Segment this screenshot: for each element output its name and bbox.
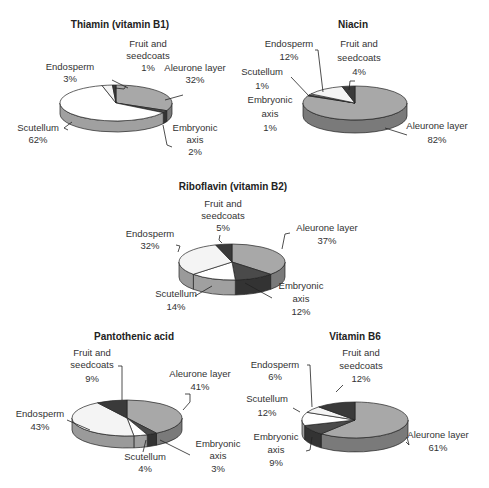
label-fruit: Fruit and — [340, 38, 378, 49]
label-aleurone-value: 37% — [317, 235, 337, 246]
label-embryonic: Embryonic — [254, 431, 299, 442]
label-fruit: Fruit and — [204, 198, 242, 209]
label-endosperm-value: 43% — [30, 421, 50, 432]
label-aleurone: Aleurone layer — [164, 62, 225, 73]
label-endosperm-value: 12% — [279, 51, 299, 62]
label-fruit-value: 5% — [216, 222, 230, 233]
chart-title: Niacin — [338, 19, 368, 30]
chart-title: Vitamin B6 — [329, 331, 381, 342]
label-fruit: Fruit and — [73, 347, 111, 358]
label-fruit: seedcoats — [339, 360, 383, 371]
pie-pantothenic-acid — [72, 400, 182, 448]
label-embryonic: axis — [187, 134, 204, 145]
label-scutellum: Scutellum — [17, 122, 59, 133]
chart-riboflavin: Riboflavin (vitamin B2) Fruit and seedco… — [126, 181, 358, 317]
chart-vitamin-b6: Vitamin B6 Endosperm 6% Fruit and seedco… — [246, 331, 468, 468]
label-aleurone: Aleurone layer — [407, 429, 468, 440]
label-endosperm-value: 32% — [140, 240, 160, 251]
pie-charts-figure: Thiamin (vitamin B1) Fruit and seedcoats… — [0, 0, 489, 488]
label-fruit-value: 1% — [141, 62, 155, 73]
label-fruit: seedcoats — [337, 52, 381, 63]
label-embryonic-value: 3% — [211, 463, 225, 474]
pie-niacin — [303, 86, 407, 133]
label-fruit-value: 12% — [351, 373, 371, 384]
label-scutellum: Scutellum — [124, 451, 166, 462]
label-aleurone: Aleurone layer — [169, 368, 230, 379]
label-scutellum: Scutellum — [246, 393, 288, 404]
label-embryonic: axis — [268, 444, 285, 455]
label-aleurone-value: 61% — [428, 442, 448, 453]
chart-title: Thiamin (vitamin B1) — [71, 19, 169, 30]
pie-thiamin — [60, 85, 172, 132]
label-embryonic: axis — [293, 293, 310, 304]
label-fruit: seedcoats — [126, 50, 170, 61]
label-endosperm: Endosperm — [126, 228, 175, 239]
label-fruit: seedcoats — [201, 210, 245, 221]
chart-pantothenic-acid: Pantothenic acid Fruit and seedcoats 9% … — [16, 331, 241, 474]
chart-title: Pantothenic acid — [94, 331, 174, 342]
label-embryonic: axis — [262, 108, 279, 119]
chart-thiamin: Thiamin (vitamin B1) Fruit and seedcoats… — [17, 19, 225, 157]
label-endosperm: Endosperm — [265, 38, 314, 49]
label-endosperm: Endosperm — [251, 359, 300, 370]
label-fruit: Fruit and — [129, 38, 167, 49]
label-embryonic: Embryonic — [248, 94, 293, 105]
label-fruit: seedcoats — [70, 359, 114, 370]
label-aleurone: Aleurone layer — [296, 222, 357, 233]
label-aleurone-value: 32% — [185, 74, 205, 85]
label-scutellum-value: 4% — [138, 463, 152, 474]
chart-title: Riboflavin (vitamin B2) — [179, 181, 287, 192]
label-scutellum: Scutellum — [155, 288, 197, 299]
label-embryonic-value: 1% — [263, 122, 277, 133]
label-aleurone-value: 41% — [190, 381, 210, 392]
label-embryonic: axis — [210, 450, 227, 461]
label-fruit-value: 9% — [85, 373, 99, 384]
label-scutellum-value: 62% — [28, 134, 48, 145]
label-embryonic-value: 9% — [269, 457, 283, 468]
label-scutellum-value: 12% — [257, 407, 277, 418]
label-embryonic-value: 2% — [188, 146, 202, 157]
label-aleurone: Aleurone layer — [406, 120, 467, 131]
label-fruit-value: 4% — [352, 66, 366, 77]
label-endosperm-value: 6% — [268, 371, 282, 382]
label-endosperm: Endosperm — [46, 61, 95, 72]
label-embryonic: Embryonic — [196, 438, 241, 449]
slice-side-embryonic — [147, 433, 156, 447]
label-embryonic: Embryonic — [279, 280, 324, 291]
label-embryonic: Embryonic — [173, 122, 218, 133]
pie-vitamin-b6 — [302, 402, 408, 452]
label-scutellum-value: 14% — [166, 301, 186, 312]
label-fruit: Fruit and — [342, 347, 380, 358]
chart-niacin: Niacin Endosperm 12% Fruit and seedcoats… — [241, 19, 467, 145]
label-endosperm-value: 3% — [63, 73, 77, 84]
label-scutellum-value: 1% — [255, 80, 269, 91]
label-endosperm: Endosperm — [16, 408, 65, 419]
slice-side-scutellum — [134, 435, 147, 448]
label-aleurone-value: 82% — [427, 134, 447, 145]
label-embryonic-value: 12% — [291, 306, 311, 317]
label-scutellum: Scutellum — [241, 66, 283, 77]
